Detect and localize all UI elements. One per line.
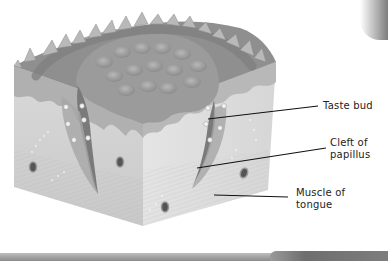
- page-edge-shadow: [270, 251, 388, 261]
- label-taste-bud: Taste bud: [323, 100, 373, 112]
- label-muscle-of-tongue: Muscle of tongue: [296, 187, 345, 211]
- tongue-cross-section-diagram: [0, 0, 388, 261]
- label-cleft-of-papillus: Cleft of papillus: [330, 137, 370, 161]
